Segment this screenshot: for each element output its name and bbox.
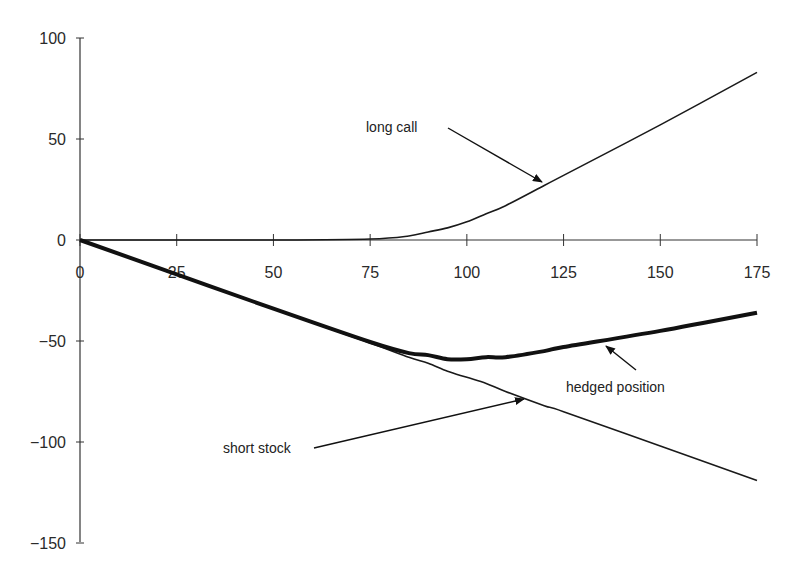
y-tick-label: 100: [39, 30, 66, 47]
y-tick-label: 0: [57, 232, 66, 249]
short-stock-label: short stock: [223, 440, 292, 456]
x-tick-label: 0: [76, 264, 85, 281]
payoff-chart: 100500−50−100−150 0255075100125150175 lo…: [0, 0, 791, 576]
x-tick-label: 175: [744, 264, 771, 281]
x-tick-label: 50: [265, 264, 283, 281]
y-tick-label: −100: [30, 434, 66, 451]
x-tick-label: 75: [361, 264, 379, 281]
long-call-arrow-icon: [448, 128, 542, 182]
hedged-position-label: hedged position: [566, 379, 665, 395]
y-tick-label: −150: [30, 535, 66, 552]
y-tick-label: 50: [48, 131, 66, 148]
y-tick-label: −50: [39, 333, 66, 350]
x-tick-label: 125: [550, 264, 577, 281]
x-tick-label: 150: [647, 264, 674, 281]
long-call-line: [80, 72, 757, 240]
x-tick-label: 100: [454, 264, 481, 281]
hedged-position-line: [80, 240, 757, 360]
short-stock-arrow-icon: [314, 399, 524, 448]
long-call-label: long call: [366, 119, 417, 135]
y-axis: 100500−50−100−150: [30, 30, 84, 552]
hedged-position-arrow-icon: [606, 346, 636, 370]
